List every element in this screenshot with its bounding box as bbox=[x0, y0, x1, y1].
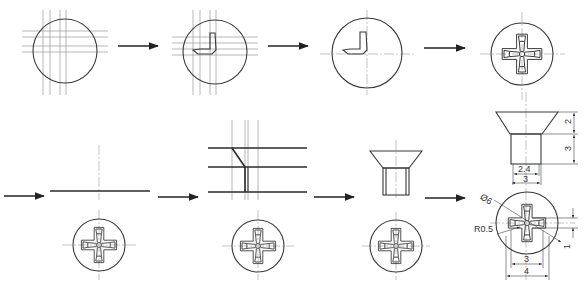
dim-shank-height: 3 bbox=[564, 146, 573, 151]
step-3-recess-arm-clean bbox=[320, 10, 415, 95]
step-8-dimensioned-top-view bbox=[490, 190, 578, 282]
step-5-side-view-baseline bbox=[50, 145, 150, 280]
step-4-completed-cross-recess bbox=[480, 12, 565, 100]
dim-radius: R0.5 bbox=[474, 225, 493, 234]
dim-slot-width: 1 bbox=[563, 244, 572, 249]
step-8-dimensioned-side-view bbox=[496, 92, 578, 190]
dim-shank-width: 3 bbox=[523, 175, 528, 184]
step-6-side-view-construction bbox=[208, 120, 307, 280]
screw-drawing-diagram bbox=[0, 0, 584, 282]
dim-head-height: 2 bbox=[564, 119, 573, 124]
dim-cross-inner: 3 bbox=[524, 255, 529, 264]
step-7-countersunk-side-view bbox=[362, 140, 430, 280]
step-1-construction-circle bbox=[22, 10, 108, 95]
dim-cross-outer: 4 bbox=[524, 267, 529, 276]
dim-inner-width: 2.4 bbox=[518, 165, 531, 174]
step-2-first-recess-arm bbox=[172, 10, 258, 95]
